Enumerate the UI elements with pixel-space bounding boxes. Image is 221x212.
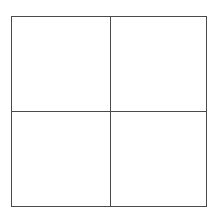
- quadrant-top-left: [12, 17, 110, 111]
- horizontal-divider: [12, 111, 206, 112]
- quadrant-top-right: [111, 17, 206, 111]
- quadrant-bottom-left: [12, 112, 110, 206]
- quadrant-grid: [11, 16, 207, 207]
- quadrant-bottom-right: [111, 112, 206, 206]
